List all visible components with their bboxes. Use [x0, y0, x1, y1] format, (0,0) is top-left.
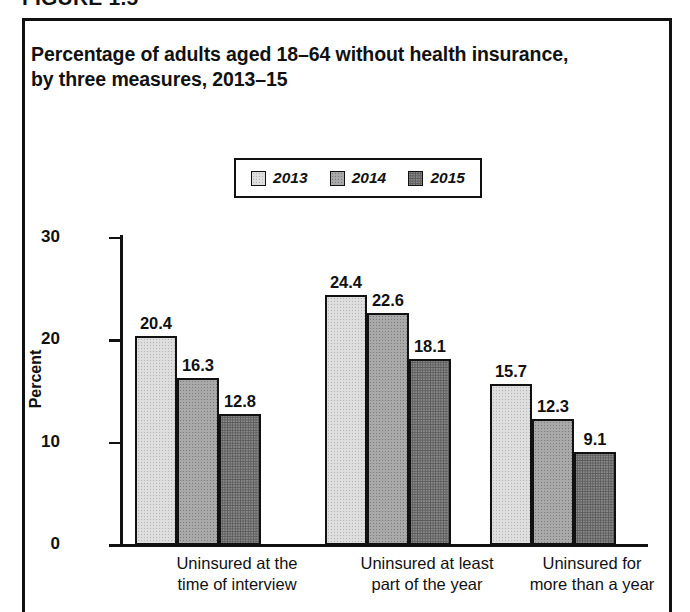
legend-swatch-2013-icon [251, 171, 266, 186]
figure-number: FIGURE 1.5 [22, 0, 138, 8]
bar-slot-2013-1: 20.4 [135, 237, 177, 545]
y-tick-label-10: 10 [12, 432, 60, 452]
chart-title-line-2: by three measures, 2013–15 [31, 67, 631, 92]
bar-group-2: 24.422.618.1 [325, 237, 451, 545]
bar-group-3: 15.712.39.1 [490, 237, 616, 545]
legend-item-2013: 2013 [251, 169, 307, 187]
legend-swatch-2014-icon [330, 171, 345, 186]
bar-2015[interactable] [409, 359, 451, 545]
y-axis-title: Percent [27, 339, 45, 419]
category-label-1: Uninsured at thetime of interview [132, 553, 342, 595]
bar-2013[interactable] [325, 295, 367, 546]
category-label-line-2: more than a year [487, 574, 690, 595]
y-tick-mark-20 [109, 339, 120, 342]
category-label-3: Uninsured formore than a year [487, 553, 690, 595]
bar-value-label: 9.1 [565, 430, 625, 449]
category-label-line-2: time of interview [132, 574, 342, 595]
chart-legend: 2013 2014 2015 [234, 158, 482, 198]
chart-title-line-1: Percentage of adults aged 18–64 without … [31, 42, 631, 67]
y-tick-label-20: 20 [12, 329, 60, 349]
bar-2015[interactable] [574, 452, 616, 545]
y-tick-label-30: 30 [12, 227, 60, 247]
bar-value-label: 18.1 [400, 337, 460, 356]
y-tick-label-0: 0 [12, 534, 60, 554]
legend-label-2015: 2015 [430, 169, 464, 187]
category-label-line-1: Uninsured for [487, 553, 690, 574]
chart-title: Percentage of adults aged 18–64 without … [31, 42, 631, 92]
bar-slot-2013-3: 15.7 [490, 237, 532, 545]
bar-slot-2015-1: 12.8 [219, 237, 261, 545]
legend-label-2013: 2013 [273, 169, 307, 187]
y-tick-mark-30 [109, 237, 120, 240]
bar-slot-2015-3: 9.1 [574, 237, 616, 545]
legend-item-2014: 2014 [330, 169, 386, 187]
legend-item-2015: 2015 [408, 169, 464, 187]
bar-slot-2014-2: 22.6 [367, 237, 409, 545]
bar-value-label: 12.8 [210, 392, 270, 411]
plot-area: 20.416.312.824.422.618.115.712.39.1 [120, 237, 640, 545]
bar-slot-2013-2: 24.4 [325, 237, 367, 545]
bar-group-1: 20.416.312.8 [135, 237, 261, 545]
category-label-line-1: Uninsured at the [132, 553, 342, 574]
y-tick-mark-10 [109, 442, 120, 445]
bar-2015[interactable] [219, 414, 261, 545]
legend-label-2014: 2014 [352, 169, 386, 187]
bar-slot-2015-2: 18.1 [409, 237, 451, 545]
bar-slot-2014-3: 12.3 [532, 237, 574, 545]
legend-swatch-2015-icon [408, 171, 423, 186]
y-tick-mark-0 [109, 544, 120, 547]
